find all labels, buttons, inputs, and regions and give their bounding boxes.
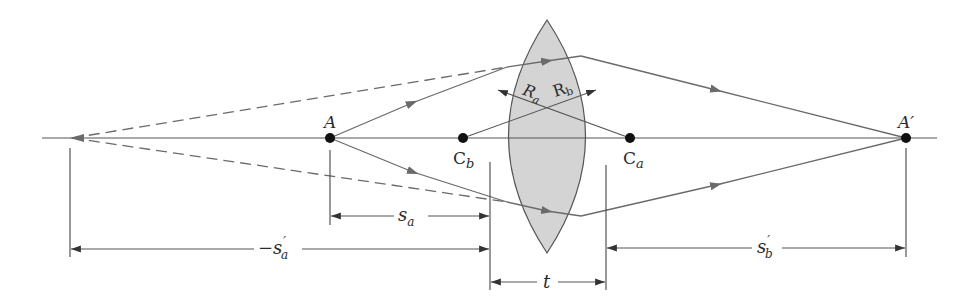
label-sa: sa [398, 204, 414, 229]
thick-lens-diagram: A A′ Cb Ca Ra Rb sa −s′a s′b t [0, 0, 962, 307]
ray-upper-emergent [581, 56, 906, 138]
ray-lower-incident [330, 138, 507, 202]
label-cb: Cb [453, 148, 474, 171]
label-ca: Ca [623, 148, 644, 171]
label-sb-prime: s′b [757, 234, 773, 261]
virtual-ray-upper [72, 67, 507, 138]
lens [509, 20, 586, 253]
virtual-image-arrow-icon [70, 134, 84, 142]
label-a: A [322, 112, 336, 132]
center-point-ca [625, 133, 635, 143]
center-point-cb [458, 133, 468, 143]
ray-upper-incident [330, 67, 507, 138]
object-point-a [325, 133, 335, 143]
label-t: t [543, 271, 551, 292]
label-neg-sa-prime: −s′a [258, 235, 288, 262]
virtual-ray-lower [72, 138, 507, 202]
image-point-a-prime [901, 133, 911, 143]
label-a-prime: A′ [896, 112, 914, 132]
